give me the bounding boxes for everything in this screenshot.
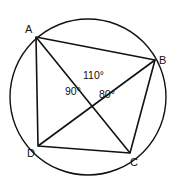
angle-label-left: 90° [65,85,81,97]
point-label-d: D [27,147,35,159]
geometry-diagram: A B C D 110° 90° 80° [0,0,177,179]
point-label-a: A [25,23,33,35]
quadrilateral-abcd [36,37,155,153]
point-label-b: B [159,54,166,66]
angle-label-top: 110° [83,69,104,81]
diagonal-ac [36,37,130,153]
angle-label-right: 80° [99,88,115,100]
point-label-c: C [130,156,138,168]
